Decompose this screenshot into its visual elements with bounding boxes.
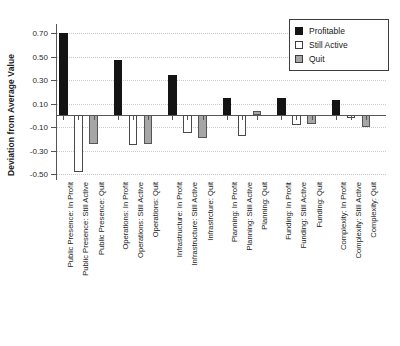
x-axis-tick-label: Funding: Quit [315,182,324,228]
x-axis-tick-label: Complexity: In Profit [339,182,348,250]
x-axis-tick-label: Planning: Quit [260,182,269,230]
bar[interactable] [223,98,232,115]
bar[interactable] [332,100,341,115]
y-axis-tick [51,57,56,58]
legend-swatch-icon [295,27,303,35]
x-axis-tick-label: Infrastrcture: Quit [206,182,215,241]
legend-item[interactable]: Quit [295,52,382,66]
x-axis-tick [312,115,313,120]
bar[interactable] [59,33,68,116]
legend-item-label: Quit [309,54,325,64]
x-axis-tick [172,115,173,120]
x-axis-tick [133,115,134,120]
x-axis-tick [257,115,258,120]
x-axis-tick [148,115,149,120]
x-axis-tick-label: Planning: In Profit [230,182,239,242]
x-axis-tick-label: Public Presence: In Profit [66,182,75,267]
gridline [57,127,386,128]
x-axis-tick [336,115,337,120]
bar[interactable] [74,115,83,171]
y-axis-tick [51,127,56,128]
y-axis-tick-label: 0.50 [32,52,48,61]
x-axis-tick [366,115,367,120]
x-axis-tick [187,115,188,120]
x-axis-tick-label: Public Presence: Quit [97,182,106,255]
legend-item[interactable]: Still Active [295,38,382,52]
x-axis-tick-label: Complexity: Still Active [354,182,363,258]
y-axis-tick [51,174,56,175]
y-axis-title-text: Deviation from Average Value [6,54,16,176]
x-axis-tick [281,115,282,120]
x-axis-tick-label: Complexity: Quit [369,182,378,238]
y-axis-tick [51,151,56,152]
legend-item[interactable]: Profitable [295,24,382,38]
x-axis-tick-label: Operations: Still Active [136,182,145,258]
y-axis-tick-label: -0.50 [30,170,48,179]
bar[interactable] [168,75,177,115]
bar[interactable] [114,60,123,116]
legend-swatch-icon [295,41,303,49]
x-axis-tick-label: Infrastructure: Still Active [190,182,199,266]
bar[interactable] [277,98,286,116]
x-axis-tick-label: Funding: In Profit [284,182,293,240]
y-axis-tick-label: 0.70 [32,29,48,38]
chart-legend: ProfitableStill ActiveQuit [289,19,389,71]
y-axis-tick [51,33,56,34]
x-axis-tick [78,115,79,120]
x-axis-tick-label: Infrastructure: In Profit [175,182,184,257]
y-axis-tick-label: 0.10 [32,99,48,108]
y-axis-tick-label: -0.10 [30,123,48,132]
x-axis-tick [242,115,243,120]
x-axis-tick-label: Operations: In Profit [121,182,130,250]
x-axis-tick [296,115,297,120]
y-axis-tick [51,80,56,81]
gridline [57,80,386,81]
y-axis-tick [51,104,56,105]
y-axis-title: Deviation from Average Value [0,0,22,230]
x-axis-labels: Public Presence: In ProfitPublic Presenc… [57,182,386,346]
gridline [57,174,386,175]
bar-chart: Deviation from Average Value Public Pres… [0,0,400,346]
x-axis-tick [63,115,64,120]
x-axis-tick [351,115,352,120]
legend-swatch-icon [295,55,303,63]
gridline [57,151,386,152]
legend-item-label: Still Active [309,40,348,50]
x-axis-tick-label: Operations: Quit [151,182,160,237]
x-axis-tick [203,115,204,120]
y-axis-tick-label: 0.30 [32,76,48,85]
x-axis-tick [227,115,228,120]
x-axis-tick [94,115,95,120]
y-axis-tick-label: -0.30 [30,146,48,155]
x-axis-tick-label: Funding: Still Active [299,182,308,248]
x-axis-tick-label: Public Presence: Still Active [81,182,90,276]
x-axis-tick-label: Planning: Still Active [245,182,254,250]
x-axis-tick [118,115,119,120]
legend-item-label: Profitable [309,26,345,36]
